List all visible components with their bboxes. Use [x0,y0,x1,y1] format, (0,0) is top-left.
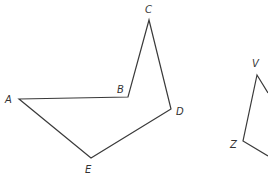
vertex-label-v: V [252,58,260,69]
vertex-label-e: E [85,164,92,175]
vertex-label-d: D [176,106,184,117]
geometry-figure: A B C D E V Z [0,0,268,180]
vertex-label-c: C [145,4,152,15]
polygon-vz-partial [243,75,268,156]
vertex-label-b: B [117,84,124,95]
vertex-label-a: A [4,94,12,105]
vertex-label-z: Z [229,139,238,150]
polygon-abcde [19,20,171,158]
